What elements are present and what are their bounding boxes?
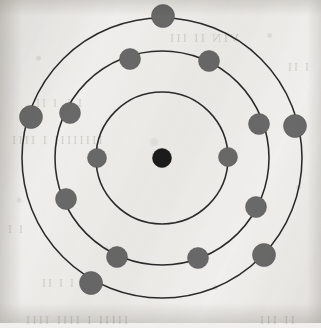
electron-l-5 bbox=[56, 189, 77, 210]
nucleus-icon bbox=[153, 149, 172, 168]
electron-l-1 bbox=[120, 49, 141, 70]
electron-l-6 bbox=[246, 197, 267, 218]
electron-l-7 bbox=[107, 247, 128, 268]
electron-l-8 bbox=[188, 248, 209, 269]
electron-l-4 bbox=[249, 114, 270, 135]
electron-m-5 bbox=[80, 272, 103, 295]
electron-m-3 bbox=[284, 115, 307, 138]
electron-l-2 bbox=[199, 51, 220, 72]
electron-k-2 bbox=[219, 148, 238, 167]
electron-l-3 bbox=[60, 103, 81, 124]
electron-m-2 bbox=[20, 106, 43, 129]
electron-m-1 bbox=[152, 5, 175, 28]
electron-k-1 bbox=[88, 149, 107, 168]
electron-m-4 bbox=[253, 244, 276, 267]
